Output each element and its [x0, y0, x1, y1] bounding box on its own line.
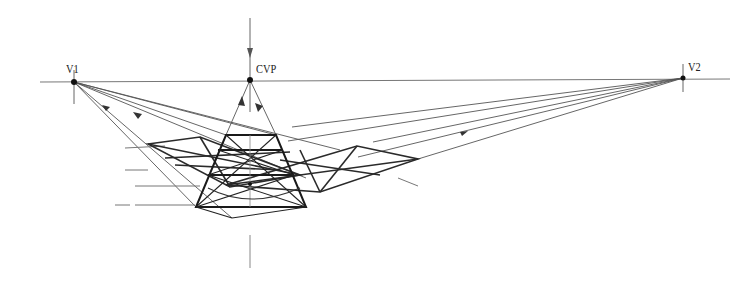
- v2-label: V2: [688, 60, 701, 73]
- v2-point: [681, 76, 686, 81]
- vanishing-point-markers: [74, 18, 683, 268]
- v1-point: [71, 79, 77, 85]
- perspective-diagram: [0, 0, 730, 281]
- trapezoid-diagonals: [196, 135, 306, 218]
- cvp-vanishing-lines: [226, 80, 276, 135]
- horizon-line: [40, 79, 730, 82]
- cvp-point: [247, 77, 253, 83]
- cvp-arrow-icon: [247, 48, 253, 58]
- v2-vanishing-lines: [288, 78, 683, 159]
- v1-label: V1: [66, 62, 79, 75]
- cvp-label: CVP: [256, 62, 276, 75]
